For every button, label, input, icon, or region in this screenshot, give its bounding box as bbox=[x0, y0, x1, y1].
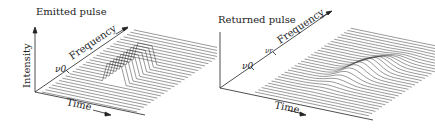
nu0-marker: ν0 bbox=[55, 64, 66, 74]
y-axis-label: Intensity bbox=[21, 43, 32, 88]
returned-pulse-diagram: Frequency Time ν0 νr bbox=[218, 0, 435, 129]
emitted-pulse-panel: Emitted pulse Intensity Frequency Time ν… bbox=[0, 0, 217, 129]
frequency-axis-label: Frequency bbox=[67, 22, 118, 62]
nur-marker: νr bbox=[265, 47, 273, 55]
emitted-pulse-diagram: Intensity Frequency Time ν0 bbox=[0, 0, 217, 129]
returned-pulse-panel: Returned pulse Frequency Time ν0 νr bbox=[218, 0, 435, 129]
frequency-axis-label: Frequency bbox=[275, 6, 326, 46]
x-axis-label: Time bbox=[274, 99, 301, 115]
nu0-marker: ν0 bbox=[242, 61, 253, 71]
